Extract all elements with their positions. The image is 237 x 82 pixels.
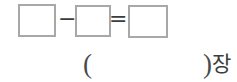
open-parenthesis: ( <box>83 49 92 79</box>
subtrahend-box <box>75 5 111 37</box>
equals-sign: = <box>109 8 127 30</box>
math-worksheet-snippet: − = ( ) 장 <box>0 0 237 82</box>
unit-label-jang: 장 <box>212 52 231 76</box>
close-parenthesis: ) <box>203 49 212 79</box>
result-box <box>128 5 168 38</box>
minuend-box <box>18 4 56 37</box>
answer-line: ( ) 장 <box>0 48 237 80</box>
minus-sign: − <box>58 8 76 30</box>
